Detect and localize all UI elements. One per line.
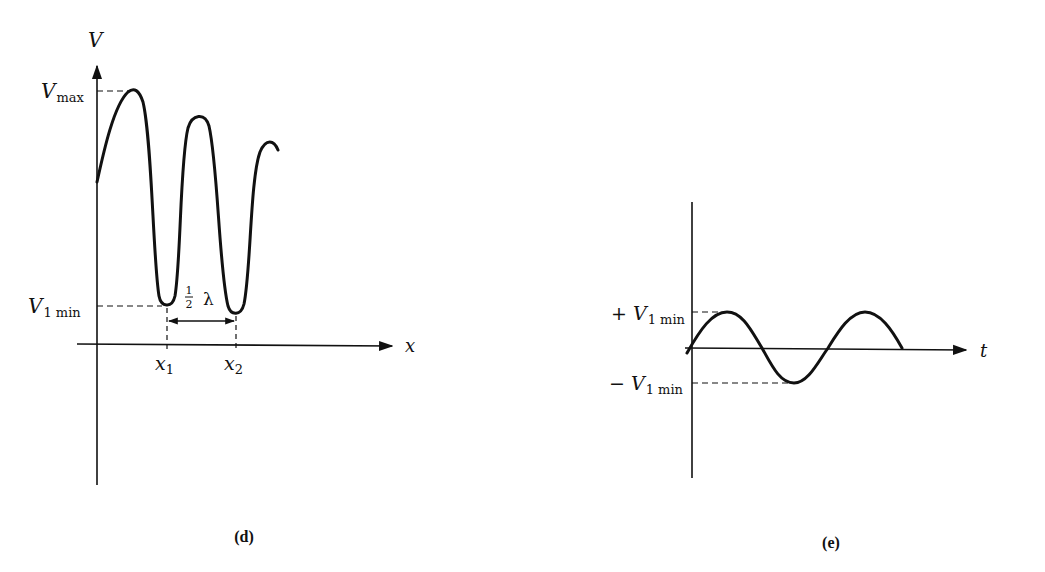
v1min-label: V1 min: [28, 294, 81, 320]
caption-e: (e): [822, 534, 840, 552]
figure-e: +V1 min −V1 min t (e): [609, 202, 988, 552]
vmax-label: Vmax: [41, 79, 85, 105]
x2-label: x2: [224, 352, 243, 377]
t-axis-label: t: [980, 340, 988, 361]
caption-d: (d): [234, 528, 254, 546]
x-axis: [77, 344, 392, 346]
half-lambda-label: 1 2 λ: [185, 284, 214, 311]
standing-wave-curve: [97, 90, 278, 314]
pos-v1min-label: +V1 min: [611, 302, 686, 327]
figure-d: V Vmax V1 min x x1 x2 1 2 λ (d): [28, 28, 415, 546]
x-axis-label: x: [405, 335, 415, 356]
svg-text:2: 2: [186, 298, 193, 311]
v-axis-label: V: [88, 28, 105, 52]
svg-text:λ: λ: [203, 289, 214, 309]
neg-v1min-label: −V1 min: [609, 372, 684, 397]
figure-canvas: V Vmax V1 min x x1 x2 1 2 λ (d) +V1 min …: [0, 0, 1045, 572]
x1-label: x1: [155, 352, 174, 377]
svg-text:1: 1: [186, 284, 193, 297]
